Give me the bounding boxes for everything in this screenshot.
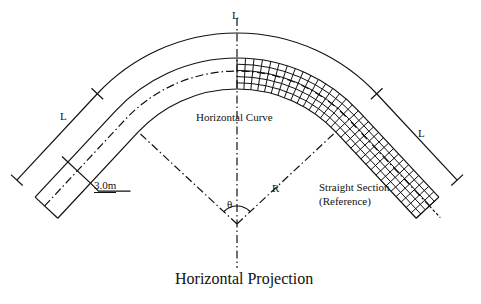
horizontal-projection-diagram xyxy=(0,0,481,304)
label-left-length: L xyxy=(60,111,67,122)
label-straight-section: Straight Section xyxy=(319,182,390,193)
centerline-extension xyxy=(429,206,440,218)
mesh-transverse-line xyxy=(381,159,404,180)
mesh-transverse-line xyxy=(371,149,394,170)
mesh-transverse-line xyxy=(406,186,429,207)
mesh-transverse-line xyxy=(346,122,369,143)
mesh-transverse-line xyxy=(416,197,439,218)
label-top-length: L xyxy=(232,10,239,21)
label-reference: (Reference) xyxy=(319,196,371,207)
mesh-transverse-line xyxy=(361,138,384,159)
mesh-transverse-line xyxy=(251,59,254,90)
mesh-transverse-line xyxy=(297,75,311,103)
left-length-dimension-line xyxy=(17,94,97,180)
label-horizontal-curve: Horizontal Curve xyxy=(196,112,273,123)
label-width-3m: 3.0m xyxy=(94,180,116,193)
width-dimension-line xyxy=(62,157,91,184)
mesh-transverse-line xyxy=(326,99,346,122)
mesh-transverse-line xyxy=(258,60,263,91)
mesh-transverse-line xyxy=(331,105,353,127)
radius-line-left xyxy=(138,132,237,224)
mesh-transverse-line xyxy=(411,192,434,213)
mesh-transverse-line xyxy=(391,170,414,191)
mesh-transverse-line xyxy=(351,127,374,148)
label-radius: R xyxy=(272,183,279,194)
mesh-transverse-line xyxy=(376,154,399,175)
left-end-cap xyxy=(35,197,58,218)
label-theta: θ xyxy=(227,199,232,210)
mesh-transverse-line xyxy=(336,111,359,132)
mesh-transverse-line xyxy=(401,181,424,202)
mesh-transverse-line xyxy=(341,116,364,137)
label-right-length: L xyxy=(418,128,425,139)
mesh-transverse-line xyxy=(264,61,270,91)
radius-line-right xyxy=(237,132,336,224)
mesh-transverse-line xyxy=(366,143,389,164)
right-length-dimension-line xyxy=(377,94,457,180)
mesh-transverse-line xyxy=(356,132,379,153)
diagram-title: Horizontal Projection xyxy=(175,271,313,287)
mesh-transverse-line xyxy=(244,58,246,89)
mesh-transverse-line xyxy=(396,176,419,197)
